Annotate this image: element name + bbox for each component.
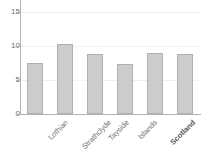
x-axis-label-group: LothianStrathclydeTaysideIslandsScotland… (0, 114, 202, 157)
y-tick-mark-10 (16, 46, 19, 47)
bar (147, 53, 163, 114)
bar (57, 44, 73, 114)
plot-area (20, 2, 200, 114)
bar (87, 54, 103, 114)
y-tick-mark-5 (16, 80, 19, 81)
x-axis-label-lothian: Lothian (46, 118, 70, 142)
bar-chart: 051015 LothianStrathclydeTaysideIslandsS… (0, 0, 202, 157)
bar (177, 54, 193, 114)
bar (27, 63, 43, 114)
y-axis-line (20, 0, 21, 114)
y-axis-tick-group: 051015 (0, 0, 20, 116)
x-axis-label-islands: Islands (136, 118, 159, 141)
y-tick-mark-15 (16, 12, 19, 13)
x-axis-label-scotland: Scotland (168, 118, 197, 147)
bar (117, 64, 133, 114)
